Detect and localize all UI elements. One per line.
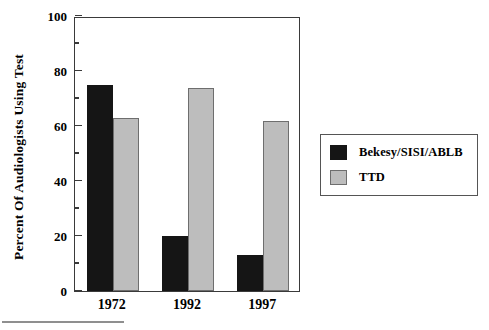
legend-item-bekesy-sisi-ablb: Bekesy/SISI/ABLB: [330, 143, 463, 161]
y-tick-label: 0: [34, 284, 67, 300]
y-tick-major: [75, 70, 82, 71]
bar-1992-series-1: [188, 88, 214, 292]
bar-1972-series-0: [87, 85, 113, 291]
bar-1972-series-1: [113, 118, 139, 291]
y-tick-label: 100: [34, 9, 67, 25]
chart-legend: Bekesy/SISI/ABLB TTD: [320, 134, 478, 196]
y-tick-label: 80: [34, 64, 67, 80]
legend-label-ttd: TTD: [359, 170, 385, 185]
y-tick-minor: [75, 207, 79, 208]
plot-inner: [75, 18, 299, 291]
y-tick-label: 40: [34, 174, 67, 190]
y-tick-minor: [75, 42, 79, 43]
y-tick-major: [75, 235, 82, 236]
y-tick-minor: [75, 262, 79, 263]
y-tick-minor: [75, 97, 79, 98]
y-tick-major: [75, 180, 82, 181]
plot-area: [74, 17, 300, 292]
y-tick-label: 60: [34, 119, 67, 135]
y-tick-label: 20: [34, 229, 67, 245]
legend-item-ttd: TTD: [330, 168, 385, 186]
bar-1992-series-0: [162, 236, 188, 291]
legend-swatch-bekesy-sisi-ablb: [330, 145, 347, 160]
legend-swatch-ttd: [330, 170, 347, 185]
y-tick-major: [75, 290, 82, 291]
bar-1997-series-0: [237, 255, 263, 291]
scan-artifact-rule: [2, 321, 124, 323]
legend-label-bekesy-sisi-ablb: Bekesy/SISI/ABLB: [359, 145, 463, 160]
x-tick-label-1972: 1972: [74, 297, 149, 313]
x-tick-label-1992: 1992: [149, 297, 224, 313]
y-tick-minor: [75, 152, 79, 153]
y-axis-title-text: Percent Of Audiologists Using Test: [11, 54, 27, 260]
y-tick-major: [75, 15, 82, 16]
bar-chart-figure: Percent Of Audiologists Using Test 02040…: [0, 0, 489, 330]
bar-1997-series-1: [263, 121, 289, 292]
y-axis-title: Percent Of Audiologists Using Test: [6, 32, 32, 282]
x-tick-label-1997: 1997: [225, 297, 300, 313]
y-tick-major: [75, 125, 82, 126]
